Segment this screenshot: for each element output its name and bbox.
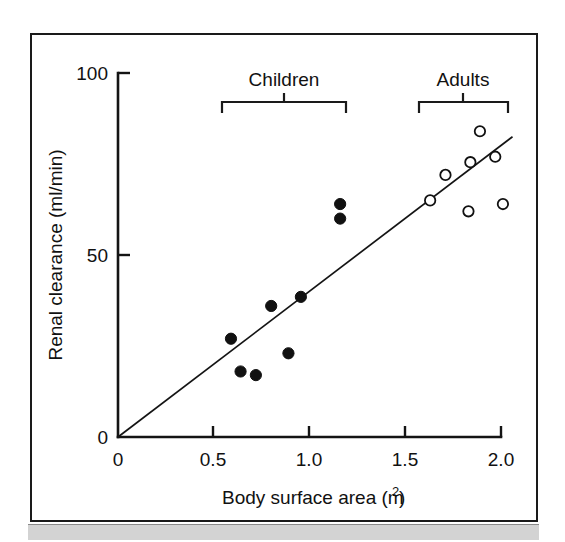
- trendline-path: [118, 137, 512, 437]
- data-point: [283, 348, 294, 359]
- data-point: [266, 300, 277, 311]
- x-tick-label-0: 0: [113, 449, 124, 470]
- x-axis-title: Body surface area (m 2 ): [222, 484, 405, 508]
- children-bracket-label: Children: [249, 69, 320, 90]
- y-tick-label-100: 100: [76, 63, 108, 84]
- data-point: [440, 170, 450, 180]
- data-point: [250, 370, 261, 381]
- data-point: [335, 198, 346, 209]
- y-axis-title: Renal clearance (ml/min): [45, 149, 66, 360]
- children-bracket-path: [222, 102, 346, 113]
- data-point: [225, 333, 236, 344]
- x-axis-title-suffix: ): [399, 487, 405, 508]
- x-axis: 0 0.5 1.0 1.5 2.0 Body surface area (m 2…: [113, 426, 515, 508]
- y-tick-label-0: 0: [97, 427, 108, 448]
- x-tick-label-1.0: 1.0: [296, 449, 322, 470]
- x-axis-title-main: Body surface area (m: [222, 487, 404, 508]
- data-point: [498, 199, 508, 209]
- x-tick-label-1.5: 1.5: [392, 449, 418, 470]
- series-children-points: [225, 198, 345, 380]
- scatter-plot: 100 50 0 Renal clearance (ml/min) 0 0.5 …: [0, 0, 565, 542]
- y-tick-label-50: 50: [87, 245, 108, 266]
- x-tick-label-2.0: 2.0: [488, 449, 514, 470]
- data-point: [335, 213, 346, 224]
- data-point: [490, 152, 500, 162]
- data-point: [463, 206, 473, 216]
- figure-root: 100 50 0 Renal clearance (ml/min) 0 0.5 …: [0, 0, 565, 542]
- regression-trendline: [118, 137, 512, 437]
- footer-gray-bar: [28, 524, 539, 540]
- x-tick-label-0.5: 0.5: [200, 449, 226, 470]
- data-point: [295, 291, 306, 302]
- data-point: [425, 195, 435, 205]
- adults-bracket-label: Adults: [437, 69, 490, 90]
- y-axis: 100 50 0 Renal clearance (ml/min): [45, 63, 130, 448]
- data-point: [235, 366, 246, 377]
- children-bracket: Children: [222, 69, 346, 113]
- adults-bracket-path: [419, 102, 508, 113]
- adults-bracket: Adults: [419, 69, 508, 113]
- data-point: [465, 157, 475, 167]
- data-point: [475, 126, 485, 136]
